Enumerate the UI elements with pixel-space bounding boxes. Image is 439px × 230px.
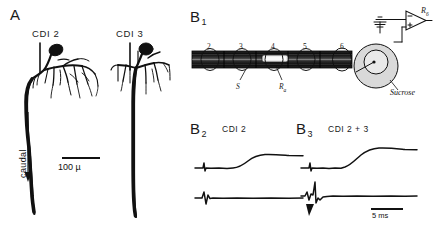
stimulus-label-s: S [236, 82, 240, 91]
trace-group-b3 [299, 146, 424, 216]
electrode-number-3: 3 [239, 42, 243, 51]
caudal-label: caudal [18, 149, 28, 178]
amplifier-label-r6-sub: 6 [426, 11, 429, 17]
figure-canvas: A CDI 2 CDI 3 [0, 0, 439, 230]
panel-b3-title: CDI 2 + 3 [328, 124, 369, 134]
recording-label-ra: Ra [279, 82, 286, 93]
sucrose-label: Sucrose [390, 88, 415, 97]
panel-letter-b1-sub: 1 [202, 17, 208, 27]
panel-letter-b2: B2 [190, 120, 206, 137]
scale-bar-100um [62, 157, 100, 159]
recording-label-ra-sub: a [284, 87, 287, 93]
trace-group-b2 [193, 150, 308, 212]
cell-label-cdi2: CDI 2 [32, 28, 59, 39]
scale-bar-100um-label: 100 µ [58, 162, 81, 172]
scale-bar-5ms [371, 208, 403, 210]
panel-letter-b2-sub: 2 [202, 129, 208, 139]
nerve-cord-diagram [190, 36, 375, 88]
panel-letter-b1-main: B [190, 8, 201, 25]
panel-letter-b3-main: B [296, 120, 307, 137]
panel-b2-title: CDI 2 [222, 124, 246, 134]
electrode-number-6: 6 [340, 42, 344, 51]
amplifier-label-r6: R6 [421, 6, 429, 17]
panel-letter-b1: B1 [190, 8, 206, 25]
cell-label-cdi3: CDI 3 [116, 28, 143, 39]
panel-letter-b2-main: B [190, 120, 201, 137]
electrode-number-2: 2 [207, 42, 211, 51]
electrode-number-4: 4 [271, 42, 275, 51]
panel-letter-a: A [10, 6, 21, 23]
electrode-number-5: 5 [303, 42, 307, 51]
scale-bar-5ms-label: 5 ms [372, 211, 388, 220]
neuron-drawing-cdi3 [108, 40, 188, 220]
panel-letter-b3: B3 [296, 120, 312, 137]
panel-letter-b3-sub: 3 [308, 129, 314, 139]
